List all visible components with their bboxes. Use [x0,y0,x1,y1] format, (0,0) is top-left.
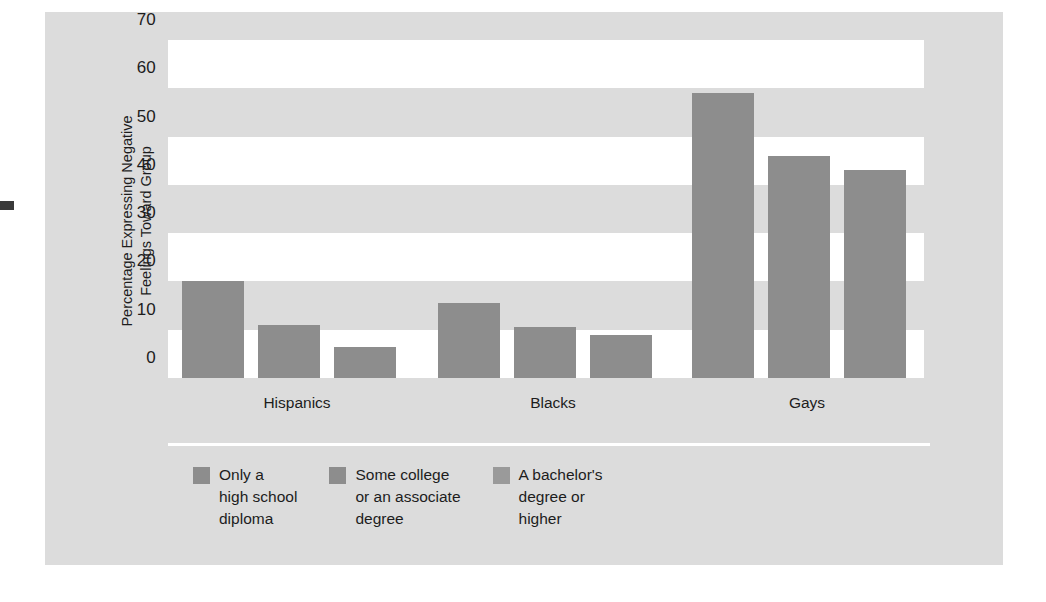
y-tick-label-60: 60 [137,58,156,78]
chart-figure-panel: Percentage Expressing Negative Feelings … [45,12,1003,565]
scan-artifact-mark [0,201,14,210]
chart-legend: Only a high school diploma Some college … [193,464,635,530]
y-tick-label-0: 0 [146,348,156,368]
legend-item-high-school[interactable]: Only a high school diploma [193,464,297,530]
legend-label-high-school: Only a high school diploma [219,464,297,530]
bar-group-gays [692,40,922,378]
bar-gays-bachelors[interactable] [844,170,906,378]
bar-hispanics-somecollege[interactable] [258,325,320,378]
bar-hispanics-highschool[interactable] [182,281,244,378]
y-axis-title-line-1: Percentage Expressing Negative [118,115,137,326]
bar-hispanics-bachelors[interactable] [334,347,396,378]
legend-label-bachelors: A bachelor's degree or higher [519,464,603,530]
y-tick-label-20: 20 [137,251,156,271]
bar-group-hispanics [182,40,412,378]
category-label-blacks: Blacks [530,394,576,412]
y-tick-label-10: 10 [137,300,156,320]
category-label-hispanics: Hispanics [263,394,330,412]
legend-separator-rule [168,443,930,446]
legend-item-bachelors[interactable]: A bachelor's degree or higher [493,464,603,530]
y-tick-label-30: 30 [137,203,156,223]
bar-gays-somecollege[interactable] [768,156,830,378]
category-label-gays: Gays [789,394,825,412]
bar-blacks-somecollege[interactable] [514,327,576,378]
bar-group-blacks [438,40,668,378]
y-tick-label-50: 50 [137,107,156,127]
bar-blacks-highschool[interactable] [438,303,500,378]
y-tick-label-40: 40 [137,155,156,175]
legend-swatch-icon-some-college [329,467,346,484]
legend-swatch-icon-high-school [193,467,210,484]
bar-gays-highschool[interactable] [692,93,754,378]
legend-label-some-college: Some college or an associate degree [355,464,460,530]
plot-area: 0 10 20 30 40 50 60 70 [168,40,924,378]
legend-swatch-icon-bachelors [493,467,510,484]
bar-blacks-bachelors[interactable] [590,335,652,379]
y-tick-label-70: 70 [137,10,156,30]
legend-item-some-college[interactable]: Some college or an associate degree [329,464,460,530]
